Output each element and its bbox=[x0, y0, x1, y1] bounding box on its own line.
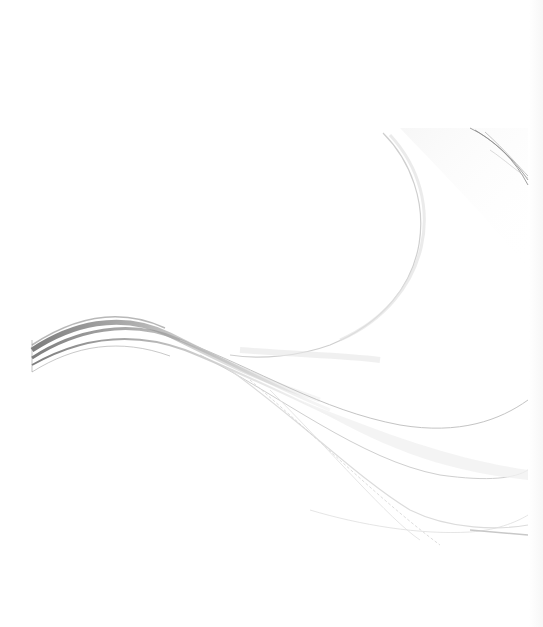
document-page bbox=[0, 0, 543, 627]
main-wave bbox=[32, 317, 340, 420]
wave-decoration bbox=[0, 0, 543, 627]
upper-arc bbox=[230, 128, 528, 357]
